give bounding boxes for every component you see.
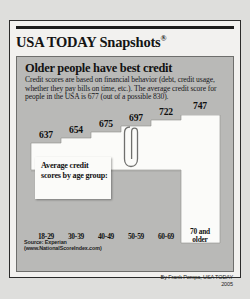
registered-mark-icon: ® [161,34,167,43]
bar-value-50-59: 697 [121,112,151,123]
source-line-2: (www.NationalScoreIndex.com) [24,245,154,251]
axis-label-60-69: 60-69 [151,232,181,241]
source-attribution: Source: Experian (www.NationalScoreIndex… [24,239,154,251]
chart-headline: Older people have best credit [25,61,225,76]
snapshot-card: USA TODAY Snapshots® Older people have b… [9,20,241,278]
snapshot-page: USA TODAY Snapshots® Older people have b… [0,0,250,299]
callout-box: Average credit scores by age group: [35,157,111,199]
bar-value-18-29: 637 [31,129,61,140]
masthead-rule [16,26,234,29]
chart-panel: Older people have best credit Credit sco… [16,56,234,272]
byline-credit: By Frank Pompa, USA TODAY 2005 [83,274,233,287]
byline-year: 2005 [83,281,233,288]
bar-value-70-and-older: 747 [183,100,217,111]
masthead-title: USA TODAY Snapshots® [16,30,236,48]
masthead-title-text: USA TODAY Snapshots [16,34,161,50]
bar-value-60-69: 722 [151,106,181,117]
bar-value-30-39: 654 [61,124,91,135]
bar-value-40-49: 675 [91,118,121,129]
byline-author: By Frank Pompa, USA TODAY [83,274,233,281]
callout-text: Average credit scores by age group: [41,161,109,181]
axis-label-70-and-older: 70 and older [184,228,216,245]
chart-deck: Credit scores are based on financial beh… [25,76,224,102]
